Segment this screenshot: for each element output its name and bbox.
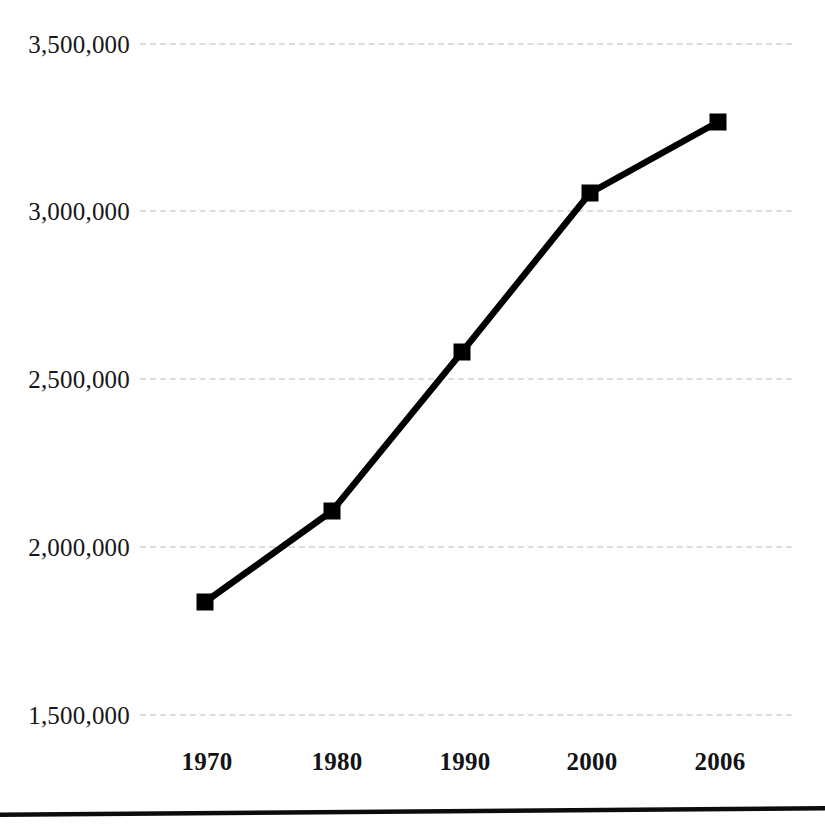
x-axis-label-1990: 1990	[405, 748, 525, 776]
data-point-marker-1990	[454, 344, 471, 361]
x-axis-label-2000: 2000	[532, 748, 652, 776]
x-axis-label-1970: 1970	[147, 748, 267, 776]
data-point-marker-2000	[582, 185, 599, 202]
series-line	[205, 122, 718, 602]
data-point-marker-2006	[710, 114, 727, 131]
chart-figure: 3,500,000 3,000,000 2,500,000 2,000,000 …	[0, 0, 825, 830]
footer-rule	[0, 806, 825, 818]
plot-area: 3,500,000 3,000,000 2,500,000 2,000,000 …	[0, 0, 825, 800]
data-point-marker-1970	[197, 594, 214, 611]
data-series-population	[0, 0, 825, 800]
x-axis-label-1980: 1980	[277, 748, 397, 776]
x-axis-label-2006: 2006	[660, 748, 780, 776]
data-point-marker-1980	[324, 503, 341, 520]
